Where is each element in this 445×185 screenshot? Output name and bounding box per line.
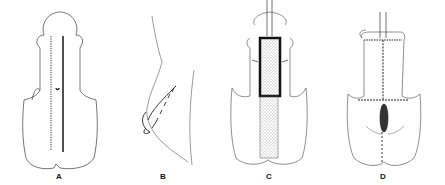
panel-b-illustration	[110, 0, 220, 185]
panel-d-illustration	[320, 0, 445, 185]
panel-c: C	[210, 0, 330, 185]
panel-a: A	[0, 0, 120, 185]
panel-b: B	[110, 0, 220, 185]
panel-label-c: C	[259, 172, 279, 181]
panel-label-b: B	[153, 172, 173, 181]
panel-label-a: A	[49, 172, 69, 181]
panel-a-illustration	[0, 0, 120, 185]
panel-c-illustration	[210, 0, 330, 185]
panel-label-d: D	[373, 172, 393, 181]
panel-d: D	[320, 0, 445, 185]
